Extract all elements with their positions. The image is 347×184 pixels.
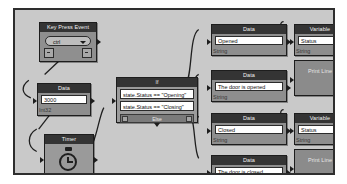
keypress-left-button[interactable] xyxy=(44,48,54,58)
data-value-input[interactable]: The door is closed xyxy=(215,167,283,175)
data-value-input[interactable]: Opened xyxy=(215,36,283,45)
node-variable-status-2[interactable]: Variable Status String xyxy=(294,113,335,145)
node-title: Timer xyxy=(45,135,93,144)
input-port[interactable] xyxy=(207,128,211,134)
node-title: Data xyxy=(212,71,286,80)
node-title: Variable xyxy=(295,25,335,34)
stopwatch-icon xyxy=(58,147,80,172)
flow-canvas[interactable]: Key Press Event ctrl Data 3000 Int32 Tim… xyxy=(13,8,335,175)
chevron-down-icon xyxy=(80,41,86,44)
if-condition-2[interactable]: state.Status == "Closing" xyxy=(120,101,194,111)
variable-type-label: String xyxy=(295,47,335,55)
node-title: Print Line xyxy=(295,61,335,76)
variable-name-input[interactable]: Status xyxy=(298,36,335,45)
node-title: Data xyxy=(212,156,286,165)
input-port[interactable] xyxy=(290,39,294,45)
output-port[interactable] xyxy=(287,85,291,91)
data-value-input[interactable]: 3000 xyxy=(41,95,87,104)
else-left-button[interactable] xyxy=(122,116,128,122)
output-port[interactable] xyxy=(91,98,95,104)
input-port[interactable] xyxy=(40,157,44,163)
variable-type-label: String xyxy=(295,136,335,144)
node-title: Data xyxy=(212,25,286,34)
data-type-label: String xyxy=(212,47,286,55)
node-data-opened[interactable]: Data Opened String xyxy=(211,24,287,56)
input-port[interactable] xyxy=(290,128,294,134)
node-data-message-closed[interactable]: Data The door is closed String xyxy=(211,155,287,175)
else-right-button[interactable] xyxy=(186,116,192,122)
node-data-message-opened[interactable]: Data The door is opened String xyxy=(211,70,287,102)
node-data-interval[interactable]: Data 3000 Int32 xyxy=(37,83,91,116)
input-port[interactable] xyxy=(290,166,294,172)
data-type-label: String xyxy=(212,93,286,101)
else-label: Else xyxy=(152,116,162,122)
node-if[interactable]: If state.Status == "Opening" state.Statu… xyxy=(116,77,198,123)
node-title: Key Press Event xyxy=(40,23,96,32)
screenshot-root: Key Press Event ctrl Data 3000 Int32 Tim… xyxy=(0,0,347,184)
input-port[interactable] xyxy=(112,98,116,104)
input-port[interactable] xyxy=(33,98,37,104)
data-value-input[interactable]: The door is opened xyxy=(215,82,283,91)
variable-name-input[interactable]: Status xyxy=(298,125,335,134)
data-type-label: String xyxy=(212,136,286,144)
input-port[interactable] xyxy=(207,39,211,45)
node-title: Data xyxy=(38,84,90,93)
input-port[interactable] xyxy=(290,77,294,83)
else-output-port[interactable] xyxy=(154,123,160,127)
data-value-input[interactable]: Closed xyxy=(215,125,283,134)
node-print-line-1[interactable]: Print Line xyxy=(294,60,335,96)
data-type-label: Int32 xyxy=(38,106,90,114)
input-port[interactable] xyxy=(207,85,211,91)
output-port[interactable] xyxy=(97,39,101,45)
node-title: Variable xyxy=(295,114,335,123)
node-variable-status-1[interactable]: Variable Status String xyxy=(294,24,335,56)
input-port[interactable] xyxy=(207,170,211,175)
if-condition-1[interactable]: state.Status == "Opening" xyxy=(120,89,194,99)
node-key-press-event[interactable]: Key Press Event ctrl xyxy=(39,22,97,62)
keypress-right-button[interactable] xyxy=(82,48,92,58)
if-else-bar[interactable]: Else xyxy=(120,114,194,123)
key-select-value: ctrl xyxy=(53,39,60,45)
node-title: Print Line xyxy=(295,150,335,165)
node-data-closed[interactable]: Data Closed String xyxy=(211,113,287,145)
node-print-line-2[interactable]: Print Line xyxy=(294,149,335,175)
node-timer[interactable]: Timer xyxy=(44,134,94,175)
key-select-dropdown[interactable]: ctrl xyxy=(45,36,91,46)
node-title: Data xyxy=(212,114,286,123)
node-title: If xyxy=(117,78,197,87)
output-port[interactable] xyxy=(94,157,98,163)
